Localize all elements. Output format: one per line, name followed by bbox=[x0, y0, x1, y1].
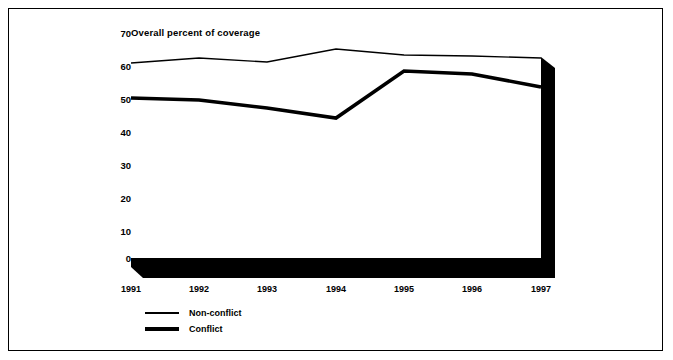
chart-legend: Non-conflict Conflict bbox=[143, 305, 242, 337]
legend-line-icon-conflict bbox=[143, 327, 181, 330]
x-tick-label-1996: 1996 bbox=[449, 284, 495, 294]
floor-slab-3d bbox=[131, 258, 555, 278]
legend-line-icon-non-conflict bbox=[143, 312, 181, 313]
x-tick-label-1992: 1992 bbox=[176, 284, 222, 294]
x-tick-label-1997: 1997 bbox=[518, 284, 564, 294]
legend-label-non-conflict: Non-conflict bbox=[189, 308, 242, 318]
y-tick-label-60: 60 bbox=[103, 61, 131, 72]
y-tick-label-10: 10 bbox=[103, 226, 131, 237]
y-tick-label-20: 20 bbox=[103, 193, 131, 204]
line-chart-svg bbox=[0, 0, 673, 360]
x-tick-label-1994: 1994 bbox=[313, 284, 359, 294]
chart-title: Overall percent of coverage bbox=[131, 27, 260, 38]
chart-figure: Overall percent of coverage 70 60 50 40 … bbox=[0, 0, 673, 360]
legend-item-conflict: Conflict bbox=[143, 321, 242, 337]
x-tick-label-1991: 1991 bbox=[108, 284, 154, 294]
x-tick-label-1995: 1995 bbox=[381, 284, 427, 294]
series-line-conflict bbox=[131, 71, 541, 118]
legend-label-conflict: Conflict bbox=[189, 324, 223, 334]
y-tick-label-50: 50 bbox=[103, 94, 131, 105]
x-tick-label-1993: 1993 bbox=[244, 284, 290, 294]
series-line-non-conflict bbox=[131, 49, 541, 63]
y-tick-label-70: 70 bbox=[103, 28, 131, 39]
plot-area: Overall percent of coverage 70 60 50 40 … bbox=[0, 0, 673, 360]
y-tick-label-40: 40 bbox=[103, 127, 131, 138]
legend-item-non-conflict: Non-conflict bbox=[143, 305, 242, 321]
y-tick-label-30: 30 bbox=[103, 160, 131, 171]
y-tick-label-0: 0 bbox=[103, 253, 131, 264]
